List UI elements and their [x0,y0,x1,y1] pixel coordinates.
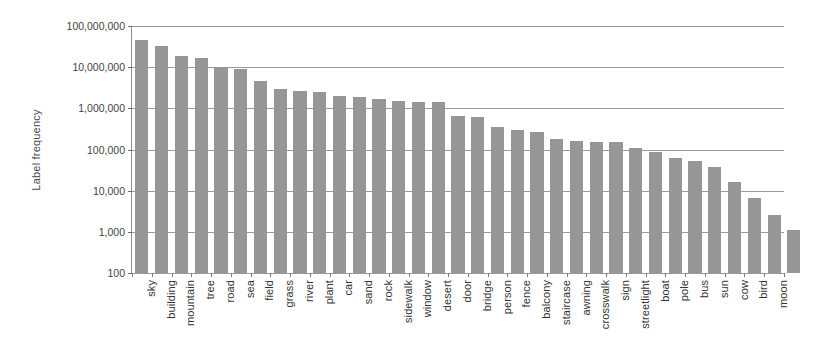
x-axis-tick-mark [567,273,568,277]
bar [728,182,741,273]
x-axis-tick-mark [685,273,686,277]
bar [530,132,543,273]
bar [412,102,425,273]
x-axis-tick-label: awning [580,280,592,315]
x-axis-ticks [132,273,784,277]
x-axis-tick-label: sidewalk [402,280,414,323]
bar [392,101,405,273]
x-axis-tick-mark [586,273,587,277]
x-axis-tick-mark [251,273,252,277]
x-axis-tick-label: plant [323,280,335,304]
bar [748,198,761,273]
bar [155,46,168,273]
x-axis-tick-label: sky [145,280,157,297]
x-axis-tick-label: road [224,280,236,302]
bar-chart: Label frequency 100,000,00010,000,0001,0… [0,0,816,363]
bar [787,230,800,273]
x-axis-tick-label: person [501,280,513,314]
x-axis-tick-mark [330,273,331,277]
x-axis-tick-mark [231,273,232,277]
x-axis-tick-mark [784,273,785,277]
bar [175,56,188,273]
bar [550,139,563,273]
x-axis-tick-label: balcony [540,280,552,319]
x-axis-tick-label: sun [718,280,730,298]
bar [432,102,445,273]
bar [372,99,385,273]
y-axis-title: Label frequency [30,70,54,230]
x-axis-tick-mark [191,273,192,277]
bar [768,215,781,273]
bar [451,116,464,273]
bar [590,142,603,273]
bar [135,40,148,273]
x-axis-labels: skybuildingmountaintreeroadseafieldgrass… [131,280,783,360]
x-axis-tick-label: staircase [560,280,572,325]
x-axis-tick-label: bus [698,280,710,298]
y-axis-tick-label: 1,000 [99,226,125,238]
y-axis-tick-label: 1,000,000 [78,102,125,114]
bar [629,148,642,273]
x-axis-tick-mark [527,273,528,277]
bar-series [132,26,784,273]
bar [254,81,267,273]
y-axis-tick-label: 100,000,000 [67,20,125,32]
bar [293,91,306,273]
bar [353,97,366,273]
x-axis-tick-mark [468,273,469,277]
x-axis-tick-mark [389,273,390,277]
bar [570,141,583,273]
bar [649,152,662,273]
x-axis-tick-label: cow [738,280,750,300]
x-axis-tick-label: building [165,280,177,319]
bar [471,117,484,273]
x-axis-tick-mark [211,273,212,277]
x-axis-tick-label: sand [362,280,374,304]
bar [313,92,326,273]
x-axis-tick-mark [448,273,449,277]
x-axis-tick-mark [310,273,311,277]
y-axis-tick-label: 10,000 [93,185,125,197]
x-axis-tick-label: crosswalk [599,280,611,329]
x-axis-tick-label: mountain [184,280,196,326]
x-axis-tick-mark [744,273,745,277]
y-axis-tick-label: 100 [107,267,125,279]
y-axis-title-text: Label frequency [30,109,42,190]
x-axis-tick-mark [547,273,548,277]
x-axis-tick-mark [725,273,726,277]
x-axis-tick-mark [409,273,410,277]
x-axis-tick-mark [507,273,508,277]
bar [195,58,208,273]
x-axis-tick-mark [349,273,350,277]
x-axis-tick-label: grass [283,280,295,307]
x-axis-tick-mark [290,273,291,277]
x-axis-tick-label: rock [382,280,394,301]
bar [708,167,721,273]
x-axis-tick-mark [369,273,370,277]
x-axis-tick-label: streetlight [639,280,651,329]
x-axis-tick-label: fence [520,280,532,307]
x-axis-tick-label: bridge [481,280,493,311]
bar [333,96,346,273]
bar [214,67,227,273]
x-axis-tick-mark [488,273,489,277]
x-axis-tick-label: sign [619,280,631,301]
x-axis-tick-label: pole [678,280,690,301]
x-axis-tick-label: sea [244,280,256,298]
x-axis-tick-label: car [342,280,354,296]
x-axis-tick-label: door [461,280,473,302]
x-axis-tick-label: bird [757,280,769,299]
x-axis-tick-mark [172,273,173,277]
x-axis-tick-mark [606,273,607,277]
x-axis-tick-mark [132,273,133,277]
x-axis-tick-mark [428,273,429,277]
bar [688,161,701,273]
bar [274,89,287,273]
y-axis-tick-label: 10,000,000 [72,61,125,73]
bar [669,158,682,273]
x-axis-tick-label: window [421,280,433,317]
x-axis-tick-mark [705,273,706,277]
x-axis-tick-mark [665,273,666,277]
x-axis-tick-label: boat [659,280,671,302]
bar [234,69,247,273]
